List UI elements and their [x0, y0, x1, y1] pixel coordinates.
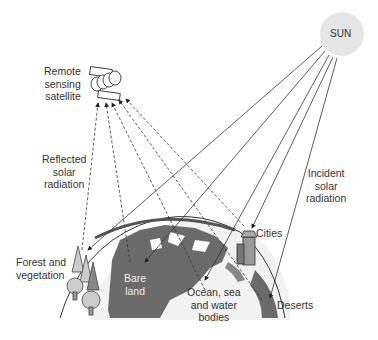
ocean-label: Ocean, sea and water bodies [187, 286, 241, 324]
ocean-label-line-2: and water [187, 299, 241, 312]
satellite-icon [90, 67, 121, 101]
satellite-label-line-3: satellite [44, 90, 81, 103]
ocean-label-line-3: bodies [187, 311, 241, 324]
incident-label-line-3: radiation [306, 192, 346, 205]
reflected-radiation-label: Reflected solar radiation [42, 153, 86, 191]
incident-radiation-label: Incident solar radiation [306, 167, 346, 205]
satellite-label-line-2: sensing [44, 78, 81, 91]
incident-label-line-2: solar [306, 180, 346, 193]
forest-trees-icon [67, 246, 100, 315]
ocean-label-line-1: Ocean, sea [187, 286, 241, 299]
reflected-label-line-2: solar [42, 166, 86, 179]
forest-label: Forest and vegetation [16, 256, 66, 281]
reflected-label-line-1: Reflected [42, 153, 86, 166]
sun-label: SUN [330, 28, 351, 41]
incident-label-line-1: Incident [306, 167, 346, 180]
forest-label-line-2: vegetation [16, 269, 66, 282]
bare-land-label-line-1: Bare [124, 272, 146, 285]
reflected-label-line-3: radiation [42, 178, 86, 191]
bare-land-label-line-2: land [124, 285, 146, 298]
satellite-label: Remote sensing satellite [44, 65, 81, 103]
forest-label-line-1: Forest and [16, 256, 66, 269]
cities-label: Cities [256, 227, 282, 240]
deserts-label: Deserts [277, 299, 313, 312]
satellite-label-line-1: Remote [44, 65, 81, 78]
bare-land-label: Bare land [124, 272, 146, 297]
